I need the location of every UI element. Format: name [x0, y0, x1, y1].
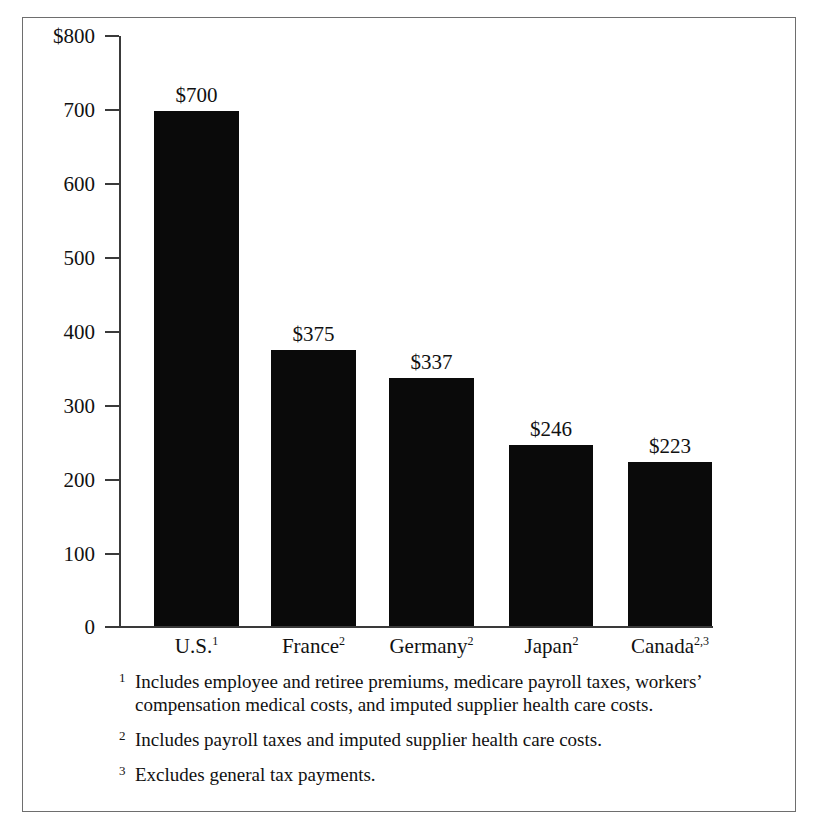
bar-france [271, 350, 356, 626]
x-label-us: U.S.1 [144, 635, 249, 658]
footnote-2: 2 Includes payroll taxes and imputed sup… [119, 728, 719, 751]
x-label-canada-footnote-mark: 2,3 [694, 634, 709, 648]
bar-value-japan: $246 [509, 419, 593, 440]
x-label-japan-footnote-mark: 2 [572, 634, 578, 648]
y-tick-label-800: $800 [0, 26, 95, 47]
y-tick-800 [105, 35, 119, 37]
x-label-france-text: France [282, 634, 339, 658]
bar-us [154, 111, 239, 626]
y-tick-label-300: 300 [0, 396, 95, 417]
bar-value-canada: $223 [628, 436, 712, 457]
bar-value-us: $700 [154, 85, 239, 106]
y-tick-label-500: 500 [0, 248, 95, 269]
clipped-title-strip [0, 0, 818, 16]
x-label-japan: Japan2 [499, 635, 604, 658]
x-label-canada: Canada2,3 [615, 635, 725, 658]
bar-value-france: $375 [271, 324, 356, 345]
y-tick-label-200: 200 [0, 470, 95, 491]
bar-germany [389, 378, 474, 626]
bar-japan [509, 445, 593, 626]
x-axis-line [119, 626, 713, 628]
y-tick-label-600: 600 [0, 174, 95, 195]
footnote-3: 3 Excludes general tax payments. [119, 763, 719, 786]
x-label-france-footnote-mark: 2 [339, 634, 345, 648]
x-label-germany-footnote-mark: 2 [468, 634, 474, 648]
bar-canada [628, 462, 712, 626]
y-tick-300 [105, 405, 119, 407]
y-tick-label-700: 700 [0, 100, 95, 121]
x-label-us-footnote-mark: 1 [212, 634, 218, 648]
footnote-2-mark: 2 [119, 724, 126, 747]
y-tick-200 [105, 479, 119, 481]
y-tick-700 [105, 109, 119, 111]
y-tick-600 [105, 183, 119, 185]
footnote-1-mark: 1 [119, 666, 126, 689]
x-label-japan-text: Japan [525, 634, 573, 658]
y-tick-label-100: 100 [0, 544, 95, 565]
footnote-1: 1 Includes employee and retiree premiums… [119, 670, 719, 716]
y-tick-0 [105, 626, 119, 628]
footnote-2-text: Includes payroll taxes and imputed suppl… [135, 729, 602, 750]
footnote-3-text: Excludes general tax payments. [135, 764, 376, 785]
y-axis-line [119, 36, 121, 627]
bar-value-germany: $337 [389, 352, 474, 373]
footnote-1-text: Includes employee and retiree premiums, … [135, 671, 701, 715]
x-label-germany-text: Germany [389, 634, 467, 658]
x-label-canada-text: Canada [631, 634, 694, 658]
footnote-3-mark: 3 [119, 759, 126, 782]
footnotes-block: 1 Includes employee and retiree premiums… [119, 670, 719, 798]
x-label-germany: Germany2 [375, 635, 488, 658]
x-label-france: France2 [261, 635, 366, 658]
y-tick-label-0: 0 [0, 617, 95, 638]
y-tick-500 [105, 257, 119, 259]
y-tick-label-400: 400 [0, 322, 95, 343]
x-label-us-text: U.S. [175, 634, 212, 658]
chart-frame: $800 700 600 500 400 300 200 100 0 $700 … [22, 17, 796, 812]
y-tick-400 [105, 331, 119, 333]
y-tick-100 [105, 553, 119, 555]
